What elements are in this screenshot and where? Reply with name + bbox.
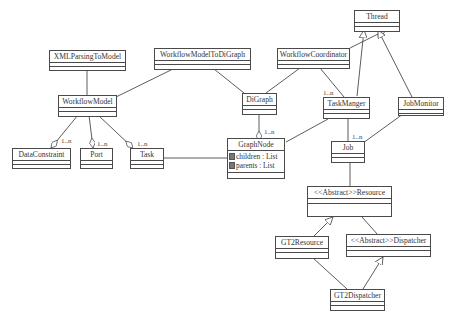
class-name: GraphNode (228, 139, 284, 151)
class-name: WorkflowCoordinator (278, 49, 349, 61)
class-operations (276, 253, 328, 256)
multiplicity-graphnode: 1..n (264, 128, 275, 136)
class-name: WorkflowModel (59, 96, 116, 108)
attribute-visibility-icon (229, 153, 235, 160)
class-name: Port (81, 149, 112, 161)
class-operations (81, 165, 112, 168)
class-attributes: children : List parents : List (228, 151, 284, 173)
class-abstract-dispatcher[interactable]: <<Abstract>>Dispatcher (346, 234, 431, 257)
class-taskmanger[interactable]: TaskManger (323, 97, 370, 119)
class-name: Task (131, 149, 163, 161)
attribute-parents: parents : List (228, 161, 284, 170)
class-operations (50, 67, 125, 70)
class-name: TaskManger (324, 98, 369, 110)
class-name: <<Abstract>>Dispatcher (347, 235, 430, 247)
class-operations (131, 165, 163, 168)
class-name: XMLParsingToModel (50, 51, 125, 63)
gen-gt2resource-resource (313, 217, 333, 237)
class-name: DataConstraint (13, 149, 70, 161)
assoc-wfcoord-digraph (266, 68, 300, 93)
class-port[interactable]: Port (80, 148, 113, 169)
class-xmlparsingtomodel[interactable]: XMLParsingToModel (49, 50, 126, 71)
class-operations (278, 65, 349, 68)
assoc-wfm2dig-digraph (214, 69, 244, 93)
gen-jobmonitor-thread (378, 30, 412, 97)
class-gt2resource[interactable]: GT2Resource (275, 236, 329, 259)
class-operations (331, 306, 384, 309)
class-name: <<Abstract>>Resource (308, 187, 391, 199)
multiplicity-job: 1..n (352, 133, 363, 141)
class-thread[interactable]: Thread (354, 10, 400, 32)
class-operations (228, 173, 284, 176)
class-workflowcoordinator[interactable]: WorkflowCoordinator (277, 48, 350, 69)
class-graphnode[interactable]: GraphNode children : List parents : List (227, 138, 285, 179)
class-name: DiGraph (243, 94, 276, 106)
class-operations (332, 158, 364, 161)
multiplicity-dataconstraint: 1..n (61, 137, 72, 145)
attribute-children: children : List (228, 152, 284, 161)
class-operations (399, 114, 443, 117)
class-operations (347, 251, 430, 254)
class-name: Thread (355, 11, 399, 23)
class-task[interactable]: Task (130, 148, 164, 169)
assoc-resource-dispatcher (362, 217, 378, 235)
class-dataconstraint[interactable]: DataConstraint (12, 148, 71, 169)
multiplicity-task: 1..n (137, 140, 148, 148)
class-operations (308, 204, 391, 207)
class-job[interactable]: Job (331, 141, 365, 163)
uml-class-diagram: Thread XMLParsingToModel WorkflowModelTo… (0, 0, 453, 326)
class-operations (155, 65, 250, 68)
class-operations (355, 27, 399, 30)
class-name: Job (332, 142, 364, 154)
assoc-gt2resource-gt2dispatcher (313, 258, 347, 289)
class-name: JobMonitor (399, 98, 443, 110)
class-digraph[interactable]: DiGraph (242, 93, 277, 115)
assoc-taskmanger-graphnode (286, 119, 328, 142)
class-name: WorkflowModelToDiGraph (155, 49, 250, 61)
gen-wfcoord-thread (350, 30, 386, 48)
class-jobmonitor[interactable]: JobMonitor (398, 97, 444, 116)
class-operations (243, 110, 276, 113)
class-gt2dispatcher[interactable]: GT2Dispatcher (330, 289, 385, 311)
class-operations (59, 112, 116, 115)
assoc-wfm2dig-wfmodel (116, 69, 173, 97)
class-name: GT2Dispatcher (331, 290, 384, 302)
gen-taskmanger-thread (357, 30, 364, 96)
attribute-visibility-icon (229, 162, 235, 169)
multiplicity-taskmanger: 1..n (323, 89, 334, 97)
class-name: GT2Resource (276, 237, 328, 249)
class-operations (13, 165, 70, 168)
class-workflowmodeltodigraph[interactable]: WorkflowModelToDiGraph (154, 48, 251, 70)
multiplicity-port: 1..n (97, 140, 108, 148)
class-operations (324, 114, 369, 117)
class-workflowmodel[interactable]: WorkflowModel (58, 95, 117, 117)
gen-gt2dispatcher-dispatcher (363, 257, 383, 289)
class-abstract-resource[interactable]: <<Abstract>>Resource (307, 186, 392, 217)
agg-wfmodel-port (89, 115, 93, 148)
